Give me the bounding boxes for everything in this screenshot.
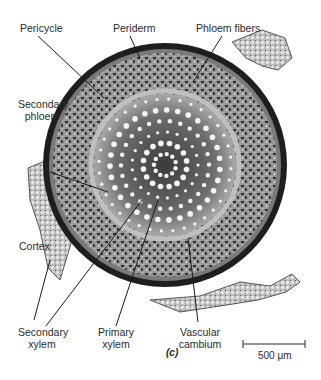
panel-label: (c) [166,347,178,358]
scale-bar-label: 500 μm [258,350,292,361]
label-secondary-phloem: Secondary phloem [18,98,66,122]
label-line-1: Secondary [18,326,66,338]
label-line-1: Primary [96,326,136,338]
label-pericycle: Pericycle [20,22,63,34]
label-primary-xylem: Primary xylem [96,326,136,350]
xylem-region [94,94,236,236]
label-line-1: Secondary [18,98,66,110]
label-line-1: Vascular [178,326,222,338]
label-line-2: xylem [96,338,136,350]
label-periderm: Periderm [113,22,156,34]
root-cross-section-image [0,0,321,380]
label-secondary-xylem: Secondary xylem [18,326,66,350]
label-line-2: cambium [178,338,222,350]
label-line-2: phloem [18,110,66,122]
micrograph-figure: Pericycle Periderm Phloem fibers Seconda… [0,0,321,380]
label-phloem-fibers: Phloem fibers [196,22,260,34]
label-line-2: xylem [18,338,66,350]
label-vascular-cambium: Vascular cambium [178,326,222,350]
label-cortex: Cortex [19,240,50,252]
scale-bar [243,340,305,348]
